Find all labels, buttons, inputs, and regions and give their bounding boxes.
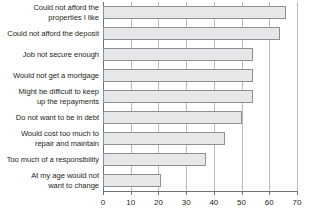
plot-area [103, 2, 297, 191]
category-label-line: Too much of a responsibility [0, 155, 99, 164]
x-tick-mark-30 [186, 191, 187, 195]
category-label: Would not get a mortgage [0, 71, 99, 80]
category-label-line: Would not get a mortgage [0, 71, 99, 80]
bar [103, 90, 253, 104]
x-tick-mark-40 [214, 191, 215, 195]
bar-row [103, 48, 297, 62]
x-tick-mark-0 [103, 191, 104, 195]
bar-rows [103, 2, 297, 191]
category-label-line: Could not afford the deposit [0, 29, 99, 38]
bar [103, 174, 161, 188]
gridline-70 [297, 2, 298, 191]
category-label-line: Do not want to be in debt [0, 113, 99, 122]
category-label-line: want to change [0, 181, 99, 190]
bar [103, 132, 225, 146]
bar [103, 111, 242, 125]
bar [103, 27, 280, 41]
x-tick-label: 70 [293, 198, 302, 208]
bar-row [103, 90, 297, 104]
category-label: At my age would notwant to change [0, 171, 99, 190]
horizontal-bar-chart: Could not afford theproperties I likeCou… [0, 0, 318, 218]
x-tick-label: 40 [209, 198, 218, 208]
category-label-line: up the repayments [0, 97, 99, 106]
category-label-line: Would cost too much to [0, 129, 99, 138]
category-label: Would cost too much torepair and maintai… [0, 129, 99, 148]
category-label: Do not want to be in debt [0, 113, 99, 122]
x-tick-label: 20 [154, 198, 163, 208]
x-tick-mark-10 [131, 191, 132, 195]
bar [103, 69, 253, 83]
bar [103, 48, 253, 62]
x-tick-mark-50 [242, 191, 243, 195]
x-tick-mark-60 [269, 191, 270, 195]
x-tick-label: 60 [265, 198, 274, 208]
category-label-line: repair and maintain [0, 139, 99, 148]
category-label: Might be difficult to keepup the repayme… [0, 87, 99, 106]
bar-row [103, 111, 297, 125]
bar-row [103, 6, 297, 20]
bar-row [103, 27, 297, 41]
x-tick-mark-20 [158, 191, 159, 195]
category-label-line: Could not afford the [0, 3, 99, 12]
x-tick-label: 0 [101, 198, 105, 208]
bar [103, 153, 206, 167]
category-label: Job not secure enough [0, 50, 99, 59]
bar-row [103, 132, 297, 146]
category-label-line: At my age would not [0, 171, 99, 180]
category-axis-labels: Could not afford theproperties I likeCou… [0, 2, 99, 191]
category-label-line: Job not secure enough [0, 50, 99, 59]
category-label-line: Might be difficult to keep [0, 87, 99, 96]
category-label: Too much of a responsibility [0, 155, 99, 164]
x-tick-label: 50 [237, 198, 246, 208]
bar-row [103, 174, 297, 188]
category-label: Could not afford the deposit [0, 29, 99, 38]
bar-row [103, 153, 297, 167]
bar [103, 6, 286, 20]
bar-row [103, 69, 297, 83]
x-tick-label: 30 [182, 198, 191, 208]
x-tick-mark-70 [297, 191, 298, 195]
category-label: Could not afford theproperties I like [0, 3, 99, 22]
category-label-line: properties I like [0, 13, 99, 22]
x-tick-label: 10 [126, 198, 135, 208]
